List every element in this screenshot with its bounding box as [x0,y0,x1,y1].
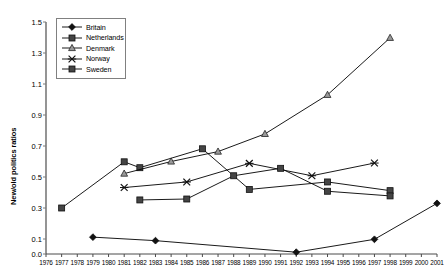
y-tick-label: 1.5 [14,18,42,27]
y-tick-label: 0.9 [14,111,42,120]
y-tick-label: 0.5 [14,173,42,182]
legend-marker-square-icon [61,33,83,43]
legend-item-netherlands[interactable]: Netherlands [61,33,120,44]
legend-item-norway[interactable]: Norway [61,54,120,65]
series-britain [90,200,441,256]
y-tick-label: 0.7 [14,142,42,151]
series-sweden [137,165,393,203]
legend-label: Norway [86,54,110,63]
legend-marker-cross-icon [61,54,83,64]
legend-item-denmark[interactable]: Denmark [61,43,120,54]
y-tick-label: 1.1 [14,80,42,89]
y-tick-label: 0.1 [14,235,42,244]
legend-label: Britain [86,23,106,32]
y-tick-label: 0.0 [14,250,42,259]
legend-label: Denmark [86,44,114,53]
y-tick-label: 1.3 [14,49,42,58]
x-tick-label: 2001 [427,259,447,266]
legend-marker-triangle-icon [61,43,83,53]
legend-label: Netherlands [86,33,124,42]
legend-item-britain[interactable]: Britain [61,22,120,33]
series-netherlands [59,146,393,211]
legend-marker-diamond-icon [61,22,83,32]
chart-legend: BritainNetherlandsDenmarkNorwaySweden [56,18,126,79]
legend-item-sweden[interactable]: Sweden [61,64,120,75]
legend-marker-square-icon [61,64,83,74]
chart-container: New/old politics ratios 0.00.10.30.50.70… [0,0,448,278]
legend-label: Sweden [86,65,111,74]
y-tick-label: 0.3 [14,204,42,213]
series-denmark [121,34,394,176]
